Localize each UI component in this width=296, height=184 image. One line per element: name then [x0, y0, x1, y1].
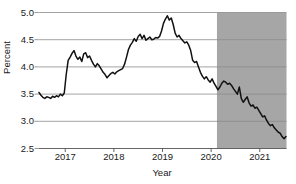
- x-tick-label: 2017: [45, 151, 85, 162]
- x-axis-title: Year: [38, 167, 286, 178]
- chart-container: 5.04.54.03.53.02.5 20172018201920202021 …: [0, 0, 296, 184]
- x-axis-tick-labels: 20172018201920202021: [0, 0, 296, 184]
- x-tick-label: 2018: [94, 151, 134, 162]
- x-tick-label: 2020: [191, 151, 231, 162]
- y-axis-title: Percent: [1, 28, 12, 88]
- x-tick-label: 2019: [143, 151, 183, 162]
- x-tick-label: 2021: [240, 151, 280, 162]
